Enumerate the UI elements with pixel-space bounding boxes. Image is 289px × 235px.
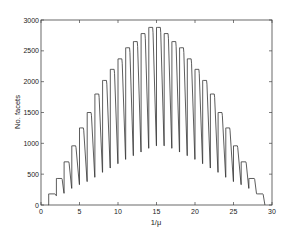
plot-area — [48, 27, 265, 205]
series-line-facets — [48, 27, 265, 205]
x-tick-label: 10 — [114, 208, 122, 215]
x-axis-label: 1/μ — [151, 218, 162, 227]
y-tick-label: 2500 — [23, 47, 39, 54]
x-tick-label: 5 — [78, 208, 82, 215]
x-tick-label: 20 — [191, 208, 199, 215]
x-tick-label: 0 — [39, 208, 43, 215]
chart: 051015202530050010001500200025003000 1/μ… — [0, 0, 289, 235]
y-tick-label: 2000 — [23, 78, 39, 85]
x-tick-label: 15 — [153, 208, 161, 215]
y-tick-label: 1000 — [23, 140, 39, 147]
y-tick-label: 500 — [27, 171, 39, 178]
x-tick-label: 25 — [230, 208, 238, 215]
y-tick-label: 0 — [35, 202, 39, 209]
y-axis-label: No. facets — [13, 95, 22, 129]
axes: 051015202530050010001500200025003000 — [23, 17, 276, 216]
x-tick-label: 30 — [268, 208, 276, 215]
y-tick-label: 3000 — [23, 17, 39, 24]
y-tick-label: 1500 — [23, 109, 39, 116]
